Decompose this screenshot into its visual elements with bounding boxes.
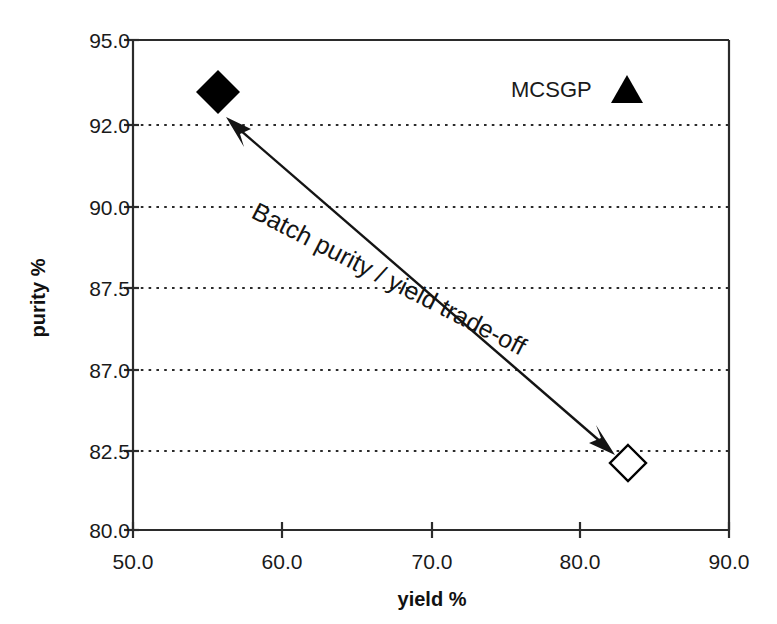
chart-figure: 95.0 92.0 90.0 87.5 87.0 82.5 80.0 50.0 … [0,0,777,624]
xtick-label-80: 80.0 [560,551,601,572]
xtick-label-60: 60.0 [262,551,303,572]
ytick-label-87-5: 87.5 [89,278,130,299]
ytick-label-80: 80.0 [89,520,130,541]
ytick-label-87: 87.0 [89,360,130,381]
ytick-label-90: 90.0 [89,197,130,218]
ytick-label-95: 95.0 [89,30,130,51]
x-axis-title: yield % [398,589,467,609]
xtick-label-50: 50.0 [113,551,154,572]
ytick-label-92: 92.0 [89,115,130,136]
xtick-label-70: 70.0 [412,551,453,572]
legend-label-mcsgp: MCSGP [511,79,592,101]
y-axis-title: purity % [28,259,48,338]
xtick-label-90: 90.0 [709,551,750,572]
ytick-label-82-5: 82.5 [89,441,130,462]
